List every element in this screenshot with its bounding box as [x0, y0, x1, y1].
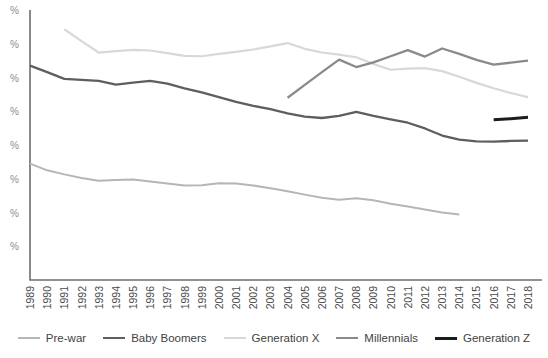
series-line-generation-x	[64, 29, 528, 97]
x-tick-label: 2001	[230, 286, 242, 310]
x-tick-label: 2000	[213, 286, 225, 310]
y-tick-label: %	[10, 106, 19, 117]
y-tick-label: %	[10, 73, 19, 84]
x-tick-label: 2008	[350, 286, 362, 310]
legend-item[interactable]: Millennials	[336, 332, 418, 344]
legend-label: Generation Z	[463, 332, 530, 344]
x-tick-label: 2006	[316, 286, 328, 310]
legend-swatch-icon	[103, 337, 125, 339]
legend-label: Pre-war	[46, 332, 86, 344]
x-tick-label: 1994	[110, 286, 122, 310]
x-tick-label: 1993	[93, 286, 105, 310]
legend-swatch-icon	[336, 337, 358, 339]
x-tick-label: 1997	[161, 286, 173, 310]
legend-label: Generation X	[252, 332, 320, 344]
legend-swatch-icon	[435, 337, 457, 340]
plot-axes	[30, 10, 542, 280]
x-tick-label: 2014	[453, 286, 465, 310]
x-tick-label: 2015	[470, 286, 482, 310]
x-tick-label: 2016	[488, 286, 500, 310]
y-tick-label: %	[10, 208, 19, 219]
y-tick-label: %	[10, 174, 19, 185]
line-chart: %%%%%%%% 1989199019911992199319941995199…	[0, 0, 548, 358]
x-tick-label: 1992	[76, 286, 88, 310]
x-tick-label: 2017	[505, 286, 517, 310]
x-tick-label: 1999	[196, 286, 208, 310]
y-tick-label: %	[10, 241, 19, 252]
series-line-baby-boomers	[30, 66, 528, 142]
x-tick-label: 2007	[333, 286, 345, 310]
legend-label: Baby Boomers	[131, 332, 206, 344]
x-tick-label: 2009	[367, 286, 379, 310]
chart-legend: Pre-warBaby BoomersGeneration XMillennia…	[0, 327, 548, 349]
axis-lines	[30, 10, 542, 280]
x-tick-labels: 1989199019911992199319941995199619971998…	[24, 286, 534, 310]
x-tick-label: 2010	[385, 286, 397, 310]
legend-item[interactable]: Baby Boomers	[103, 332, 206, 344]
legend-item[interactable]: Pre-war	[18, 332, 86, 344]
y-tick-labels: %%%%%%%%	[10, 5, 19, 252]
x-tick-label: 1990	[41, 286, 53, 310]
series-line-millennials	[288, 48, 528, 97]
x-tick-label: 2005	[299, 286, 311, 310]
x-tick-label: 2018	[522, 286, 534, 310]
x-tick-label: 2004	[282, 286, 294, 310]
legend-label: Millennials	[364, 332, 418, 344]
y-tick-label: %	[10, 39, 19, 50]
x-tick-label: 1998	[179, 286, 191, 310]
legend-item[interactable]: Generation X	[224, 332, 320, 344]
y-tick-label: %	[10, 5, 19, 16]
series-lines	[30, 29, 528, 214]
x-tick-label: 2011	[402, 286, 414, 309]
x-tick-label: 1996	[144, 286, 156, 310]
x-tick-label: 1995	[127, 286, 139, 310]
x-tick-label: 1991	[58, 286, 70, 310]
series-line-generation-z	[494, 117, 528, 119]
legend-item[interactable]: Generation Z	[435, 332, 530, 344]
chart-canvas: %%%%%%%% 1989199019911992199319941995199…	[0, 0, 548, 358]
series-line-pre-war	[30, 164, 459, 215]
legend-swatch-icon	[18, 337, 40, 339]
x-tick-label: 1989	[24, 286, 36, 310]
legend-swatch-icon	[224, 337, 246, 339]
x-tick-label: 2013	[436, 286, 448, 310]
x-tick-label: 2012	[419, 286, 431, 310]
x-tick-label: 2002	[247, 286, 259, 310]
x-tick-label: 2003	[264, 286, 276, 310]
y-tick-label: %	[10, 140, 19, 151]
